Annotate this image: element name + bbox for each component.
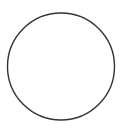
circle-diagram (0, 0, 124, 140)
circle-outline (8, 13, 115, 120)
diagram-canvas (0, 0, 124, 140)
